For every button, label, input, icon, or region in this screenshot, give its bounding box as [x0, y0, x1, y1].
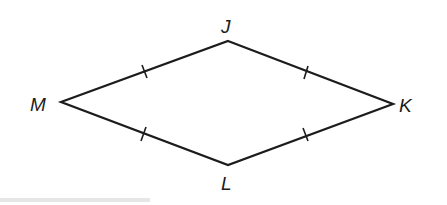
scan-artifact-bar: [0, 198, 150, 202]
vertex-label-m: M: [30, 94, 46, 115]
rhombus-diagram: J K L M: [0, 0, 447, 205]
rhombus-jklm: [61, 41, 393, 165]
tick-mark-jk: [304, 66, 308, 79]
tick-mark-lk: [303, 128, 308, 141]
vertex-label-k: K: [399, 95, 413, 116]
diagram-canvas: J K L M: [0, 0, 447, 205]
vertex-label-l: L: [221, 173, 232, 194]
vertex-label-j: J: [220, 16, 231, 37]
